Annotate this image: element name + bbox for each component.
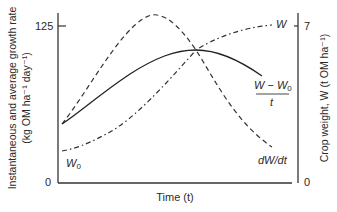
- curve-instantaneous-growth: [62, 15, 272, 147]
- tick-right-7: 7: [304, 20, 310, 32]
- tick-left-125: 125: [35, 20, 53, 32]
- label-w: W: [276, 18, 288, 30]
- curve-crop-weight: [62, 25, 272, 151]
- tick-right-0: 0: [304, 176, 310, 188]
- growth-chart: 125 0 7 0 Instantaneous and average grow…: [0, 0, 337, 212]
- label-instantaneous: dW/dt: [258, 154, 288, 166]
- x-axis-title: Time (t): [156, 191, 193, 203]
- label-average-numerator: W − W0: [254, 79, 292, 93]
- y-axis-left-title: Instantaneous and average growth rate: [6, 6, 18, 189]
- label-average-denominator: t: [270, 96, 274, 108]
- label-w0: W0: [66, 157, 81, 171]
- tick-left-0: 0: [45, 176, 51, 188]
- y-axis-left-units: (kg OM ha⁻¹ day⁻¹): [20, 52, 32, 143]
- y-axis-right-title: Crop weight, W (t OM ha⁻¹): [318, 34, 330, 163]
